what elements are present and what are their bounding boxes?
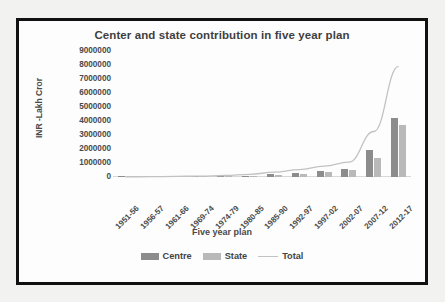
y-axis-title: INR -Lakh Cror bbox=[34, 48, 44, 168]
y-tick-label: 6000000 bbox=[79, 88, 111, 97]
y-tick-label: 4000000 bbox=[79, 116, 111, 125]
chart-legend: CentreStateTotal bbox=[19, 251, 425, 261]
y-tick-label: 0 bbox=[106, 172, 111, 181]
y-tick-label: 7000000 bbox=[79, 74, 111, 83]
y-tick-label: 5000000 bbox=[79, 102, 111, 111]
total-line-path bbox=[125, 66, 398, 176]
legend-label: Centre bbox=[163, 251, 192, 261]
screenshot-root: Center and state contribution in five ye… bbox=[0, 0, 445, 302]
chart-title: Center and state contribution in five ye… bbox=[19, 29, 425, 41]
x-axis-title: Five year plan bbox=[19, 227, 425, 237]
legend-label: State bbox=[225, 251, 247, 261]
y-tick-label: 3000000 bbox=[79, 130, 111, 139]
x-axis-tick-labels: 1951-561956-571961-661969-741974-791980-… bbox=[113, 179, 411, 231]
legend-swatch-total-icon bbox=[258, 256, 278, 257]
y-tick-label: 1000000 bbox=[79, 158, 111, 167]
y-tick-label: 2000000 bbox=[79, 144, 111, 153]
chart-area: Center and state contribution in five ye… bbox=[19, 21, 425, 282]
legend-item-state[interactable]: State bbox=[203, 251, 247, 261]
y-tick-label: 9000000 bbox=[79, 46, 111, 55]
legend-item-centre[interactable]: Centre bbox=[141, 251, 192, 261]
legend-swatch-state-icon bbox=[203, 253, 221, 260]
legend-item-total[interactable]: Total bbox=[258, 251, 303, 261]
y-axis-tick-labels: 9000000800000070000006000000500000040000… bbox=[49, 51, 111, 177]
y-tick-label: 8000000 bbox=[79, 60, 111, 69]
legend-label: Total bbox=[282, 251, 303, 261]
plot-area bbox=[113, 51, 411, 177]
figure-frame: Center and state contribution in five ye… bbox=[16, 18, 428, 285]
figure-canvas: Center and state contribution in five ye… bbox=[19, 21, 425, 282]
legend-swatch-centre-icon bbox=[141, 253, 159, 260]
total-line-series bbox=[113, 51, 411, 177]
